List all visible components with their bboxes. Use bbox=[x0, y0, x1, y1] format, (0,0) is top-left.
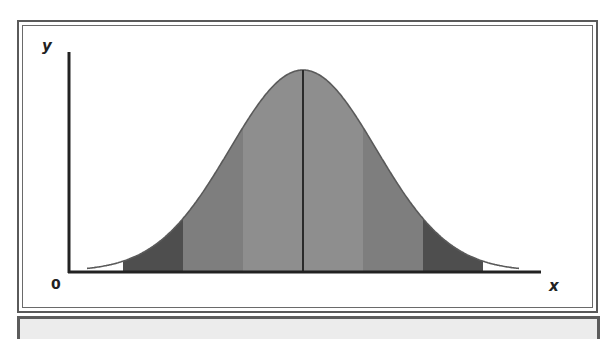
y-axis-label: y bbox=[42, 37, 53, 55]
band-dark-5 bbox=[423, 219, 483, 271]
x-axis-label: x bbox=[548, 277, 560, 295]
band-medium-4 bbox=[363, 127, 423, 271]
origin-label: 0 bbox=[51, 276, 61, 292]
band-medium-1 bbox=[183, 127, 243, 271]
band-dark-0 bbox=[123, 219, 183, 271]
band-light-3 bbox=[303, 70, 363, 271]
band-light-2 bbox=[243, 70, 303, 271]
